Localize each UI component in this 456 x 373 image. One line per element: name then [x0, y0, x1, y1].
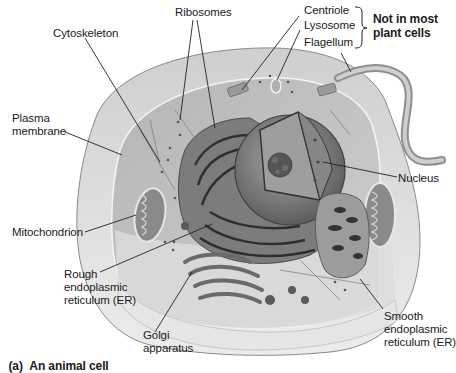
caption-prefix: (a)	[8, 359, 22, 373]
label-lysosome: Lysosome	[304, 19, 355, 32]
figure-caption: (a) An animal cell	[2, 345, 109, 373]
label-golgi: Golgi apparatus	[143, 329, 193, 355]
label-nucleus: Nucleus	[398, 172, 439, 185]
label-not-in-plant-cells: Not in most plant cells	[373, 12, 438, 40]
smooth-er	[315, 193, 369, 278]
label-smooth-er: Smooth endoplasmic reticulum (ER)	[384, 310, 456, 349]
bracket	[355, 7, 367, 48]
label-cytoskeleton: Cytoskeleton	[53, 27, 118, 40]
label-ribosomes: Ribosomes	[175, 6, 232, 19]
label-rough-er: Rough endoplasmic reticulum (ER)	[64, 268, 136, 307]
caption-text: An animal cell	[29, 359, 108, 373]
label-flagellum: Flagellum	[304, 36, 353, 49]
label-mitochondrion: Mitochondrion	[12, 226, 83, 239]
lysosome	[271, 79, 281, 93]
label-centriole: Centriole	[304, 4, 349, 17]
label-plasma-membrane: Plasma membrane	[12, 112, 66, 138]
